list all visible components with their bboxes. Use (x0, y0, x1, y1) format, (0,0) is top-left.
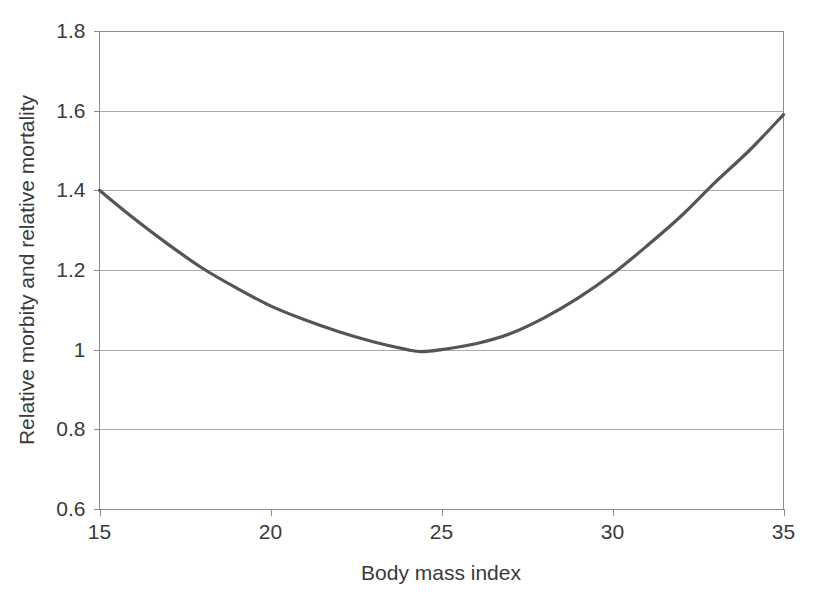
y-tick-label-0.8: 0.8 (56, 417, 85, 440)
chart-background (0, 0, 820, 607)
bmi-mortality-line-chart: 0.60.811.21.41.61.8 1520253035 Body mass… (0, 0, 820, 607)
y-tick-label-1: 1 (74, 338, 86, 361)
y-tick-label-1.6: 1.6 (56, 99, 85, 122)
y-tick-label-1.2: 1.2 (56, 258, 85, 281)
x-tick-label-30: 30 (601, 520, 624, 543)
x-tick-label-15: 15 (88, 520, 111, 543)
x-axis-title: Body mass index (361, 561, 521, 584)
y-tick-label-1.8: 1.8 (56, 19, 85, 42)
x-tick-label-35: 35 (772, 520, 795, 543)
y-tick-label-0.6: 0.6 (56, 497, 85, 520)
chart-container: 0.60.811.21.41.61.8 1520253035 Body mass… (0, 0, 820, 607)
x-tick-label-20: 20 (259, 520, 282, 543)
y-axis-title: Relative morbity and relative mortality (15, 94, 38, 445)
y-tick-label-1.4: 1.4 (56, 178, 86, 201)
x-tick-label-25: 25 (430, 520, 453, 543)
